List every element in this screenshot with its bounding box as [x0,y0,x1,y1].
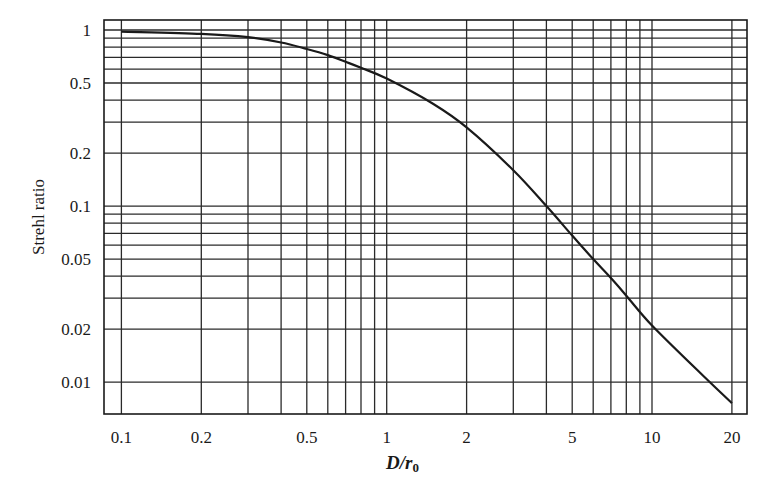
y-tick-label: 0.2 [70,144,91,163]
y-tick-label: 0.05 [61,250,91,269]
y-tick-label: 0.02 [61,320,91,339]
x-gridlines [121,20,732,414]
x-tick-labels: 0.10.20.51251020 [111,428,741,447]
x-tick-label: 10 [644,428,661,447]
y-tick-label: 0.1 [70,197,91,216]
x-tick-label: 1 [382,428,391,447]
y-gridlines [104,30,747,382]
strehl-ratio-chart: 0.10.20.51251020 10.50.20.10.050.020.01 … [0,0,773,488]
y-tick-label: 0.01 [61,373,91,392]
x-axis-title: D/r0 [386,452,419,476]
x-tick-label: 5 [568,428,577,447]
x-tick-label: 2 [462,428,471,447]
x-tick-label: 0.1 [111,428,132,447]
plot-frame [104,20,747,414]
x-tick-label: 0.5 [296,428,317,447]
x-tick-label: 0.2 [191,428,212,447]
y-tick-label: 1 [83,21,92,40]
x-axis-title-subscript: 0 [412,460,419,475]
x-axis-title-main: D/r [386,452,412,473]
x-tick-label: 20 [723,428,740,447]
y-axis-title: Strehl ratio [29,179,48,255]
y-tick-labels: 10.50.20.10.050.020.01 [61,21,91,392]
y-tick-label: 0.5 [70,74,91,93]
